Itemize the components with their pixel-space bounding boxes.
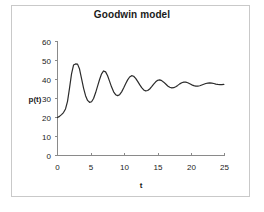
y-tick-label-0: 0	[47, 152, 52, 161]
y-tick-label-20: 20	[42, 114, 51, 123]
y-tick-label-30: 30	[42, 95, 51, 104]
y-tick-label-40: 40	[42, 76, 51, 85]
y-tick-label-50: 50	[42, 57, 51, 66]
series-line-pt	[58, 64, 224, 118]
x-tick-label-25: 25	[220, 163, 229, 172]
chart-figure: Goodwin model 60 50 40 30	[0, 0, 264, 212]
y-tick-label-60: 60	[42, 38, 51, 47]
y-tick-label-10: 10	[42, 133, 51, 142]
x-axis-title: t	[140, 181, 143, 190]
plot-area: 60 50 40 30 20 10 0 0 5 10 15 20 25 p(t)…	[0, 0, 264, 212]
x-tick-label-20: 20	[187, 163, 196, 172]
x-tick-label-5: 5	[89, 163, 94, 172]
x-tick-label-10: 10	[120, 163, 129, 172]
x-tick-label-15: 15	[154, 163, 163, 172]
y-axis-title: p(t)	[29, 95, 42, 104]
x-tick-label-0: 0	[55, 163, 60, 172]
